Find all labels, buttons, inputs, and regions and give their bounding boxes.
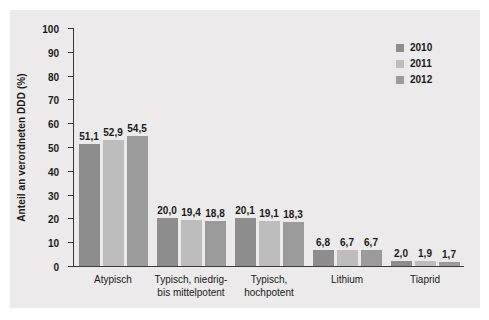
legend-swatch-icon <box>396 44 404 52</box>
bar-value-label: 18,3 <box>283 209 302 220</box>
chart-legend: 201020112012 <box>396 42 432 85</box>
x-axis-category-label: Tiaprid <box>410 273 440 286</box>
bar-column[interactable]: 20,0 <box>157 28 178 266</box>
x-axis-category-line: Lithium <box>331 273 363 286</box>
bar-column[interactable]: 18,8 <box>205 28 226 266</box>
bar-2010[interactable] <box>391 261 412 266</box>
bar-value-label: 1,7 <box>442 249 456 260</box>
y-axis-tick: 0 <box>68 266 74 267</box>
bar-column[interactable]: 19,1 <box>259 28 280 266</box>
legend-item-label: 2012 <box>410 74 432 85</box>
bar-2012[interactable] <box>361 250 382 266</box>
legend-item[interactable]: 2010 <box>396 42 432 53</box>
bar-group: 20,019,418,8Typisch, niedrig-bis mittelp… <box>152 28 230 266</box>
bar-value-label: 52,9 <box>103 127 122 138</box>
x-axis-category-line: bis mittelpotent <box>155 286 228 299</box>
bar-2012[interactable] <box>127 136 148 266</box>
x-axis-category-label: Typisch,hochpotent <box>244 273 294 299</box>
y-axis-tick-label: 40 <box>48 166 59 177</box>
bar-group: 20,119,118,3Typisch,hochpotent <box>230 28 308 266</box>
bar-2010[interactable] <box>157 218 178 266</box>
y-axis-title: Anteil an verordneten DDD (%) <box>14 28 28 266</box>
legend-swatch-icon <box>396 76 404 84</box>
bar-2012[interactable] <box>205 221 226 266</box>
bar-column[interactable]: 52,9 <box>103 28 124 266</box>
x-axis-category-label: Typisch, niedrig-bis mittelpotent <box>155 273 228 299</box>
x-axis-category-line: Typisch, <box>244 273 294 286</box>
bar-2010[interactable] <box>79 144 100 266</box>
bar-2011[interactable] <box>181 220 202 266</box>
bar-value-label: 18,8 <box>205 208 224 219</box>
bar-2011[interactable] <box>259 221 280 266</box>
bar-column[interactable]: 19,4 <box>181 28 202 266</box>
bar-group: 6,86,76,7Lithium <box>308 28 386 266</box>
bar-column[interactable]: 54,5 <box>127 28 148 266</box>
bar-column[interactable]: 6,7 <box>361 28 382 266</box>
y-axis-tick-label: 100 <box>42 24 59 35</box>
bar-2012[interactable] <box>439 262 460 266</box>
bar-column[interactable]: 6,8 <box>313 28 334 266</box>
x-axis-category-line: Atypisch <box>94 273 132 286</box>
y-axis-tick-label: 30 <box>48 190 59 201</box>
bar-value-label: 20,1 <box>235 205 254 216</box>
y-axis-tick-label: 20 <box>48 214 59 225</box>
y-axis-tick-label: 10 <box>48 238 59 249</box>
legend-item[interactable]: 2011 <box>396 58 432 69</box>
bar-value-label: 19,4 <box>181 207 200 218</box>
bar-column[interactable]: 6,7 <box>337 28 358 266</box>
bar-2010[interactable] <box>235 218 256 266</box>
x-axis-category-line: Typisch, niedrig- <box>155 273 228 286</box>
legend-swatch-icon <box>396 60 404 68</box>
bar-group-bars: 51,152,954,5 <box>74 28 152 266</box>
y-axis-tick-label: 70 <box>48 95 59 106</box>
bar-value-label: 6,7 <box>340 237 354 248</box>
y-axis-tick-label: 60 <box>48 119 59 130</box>
x-axis-category-label: Atypisch <box>94 273 132 286</box>
bar-group: 51,152,954,5Atypisch <box>74 28 152 266</box>
bar-value-label: 6,7 <box>364 237 378 248</box>
legend-item-label: 2010 <box>410 42 432 53</box>
bar-value-label: 6,8 <box>316 237 330 248</box>
legend-item-label: 2011 <box>410 58 432 69</box>
bar-2011[interactable] <box>103 140 124 266</box>
bar-value-label: 2,0 <box>394 248 408 259</box>
bar-group-bars: 20,019,418,8 <box>152 28 230 266</box>
bar-2011[interactable] <box>415 261 436 266</box>
bar-column[interactable]: 51,1 <box>79 28 100 266</box>
y-axis-tick-label: 90 <box>48 47 59 58</box>
legend-item[interactable]: 2012 <box>396 74 432 85</box>
bar-value-label: 51,1 <box>79 131 98 142</box>
y-axis-tick-label: 0 <box>53 262 59 273</box>
bar-group-bars: 6,86,76,7 <box>308 28 386 266</box>
bar-value-label: 20,0 <box>157 205 176 216</box>
x-axis-category-line: Tiaprid <box>410 273 440 286</box>
bar-2010[interactable] <box>313 250 334 266</box>
chart-figure: Anteil an verordneten DDD (%) 0102030405… <box>0 0 489 320</box>
bar-value-label: 54,5 <box>127 123 146 134</box>
bar-group-bars: 20,119,118,3 <box>230 28 308 266</box>
bar-2012[interactable] <box>283 222 304 266</box>
x-axis-category-label: Lithium <box>331 273 363 286</box>
bar-value-label: 1,9 <box>418 248 432 259</box>
y-axis-tick-label: 80 <box>48 71 59 82</box>
x-axis-category-line: hochpotent <box>244 286 294 299</box>
y-axis-title-text: Anteil an verordneten DDD (%) <box>16 73 27 221</box>
bar-column[interactable]: 20,1 <box>235 28 256 266</box>
bar-2011[interactable] <box>337 250 358 266</box>
bar-column[interactable]: 18,3 <box>283 28 304 266</box>
bar-value-label: 19,1 <box>259 208 278 219</box>
y-axis-tick-label: 50 <box>48 143 59 154</box>
bar-column[interactable]: 1,7 <box>439 28 460 266</box>
